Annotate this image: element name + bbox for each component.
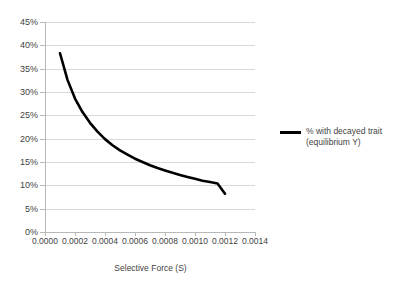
legend-label-line2: (equilibrium Y): [306, 137, 404, 148]
series-decayed-trait: [45, 22, 255, 232]
y-axis-label-5: 5%: [4, 205, 38, 214]
legend-line-swatch-icon: [280, 131, 301, 134]
legend-item-label: % with decayed trait (equilibrium Y): [306, 126, 404, 148]
y-axis-label-45: 45%: [4, 18, 38, 27]
x-axis-title: Selective Force (S): [45, 263, 256, 273]
y-axis-label-20: 20%: [4, 135, 38, 144]
legend-label-line1: % with decayed trait: [306, 126, 382, 136]
y-axis-label-25: 25%: [4, 111, 38, 120]
y-axis-label-15: 15%: [4, 158, 38, 167]
y-axis-label-35: 35%: [4, 65, 38, 74]
chart-container: 45% 40% 35% 30% 25% 20% 15% 10% 5% 0% 0.…: [0, 0, 405, 292]
y-axis-label-30: 30%: [4, 88, 38, 97]
y-axis-label-10: 10%: [4, 181, 38, 190]
x-axis-label-7: 0.0014: [233, 237, 277, 246]
y-axis-label-40: 40%: [4, 41, 38, 50]
chart-legend: % with decayed trait (equilibrium Y): [280, 126, 404, 148]
legend-item: % with decayed trait (equilibrium Y): [280, 126, 404, 148]
